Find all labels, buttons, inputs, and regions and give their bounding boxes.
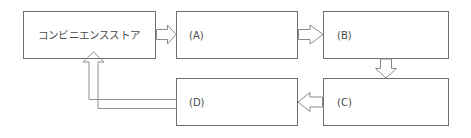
arrow-c-to-d-icon — [298, 93, 323, 112]
node-label-c: (C) — [337, 97, 352, 108]
arrow-b-to-c-icon — [376, 59, 397, 78]
flowchart-diagram: コンビニエンスストア (A) (B) (D) (C) — [0, 0, 471, 138]
node-label-store: コンビニエンスストア — [38, 29, 140, 41]
node-label-d: (D) — [189, 97, 205, 108]
node-label-b: (B) — [337, 30, 352, 41]
node-label-a: (A) — [189, 30, 204, 41]
diagram-canvas: コンビニエンスストア (A) (B) (D) (C) — [0, 0, 471, 138]
arrow-a-to-b-icon — [299, 25, 324, 44]
arrow-store-to-a-icon — [157, 25, 177, 44]
arrow-d-to-store-icon — [83, 52, 177, 109]
